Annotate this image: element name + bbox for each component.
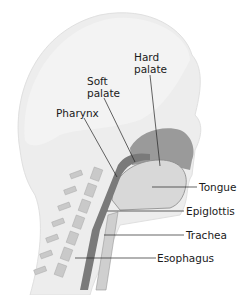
label-esophagus: Esophagus [157, 252, 214, 264]
label-soft-palate-line1: Soft [87, 75, 120, 87]
label-epiglottis: Epiglottis [186, 205, 235, 217]
label-tongue: Tongue [199, 181, 237, 193]
label-hard-palate-line2: palate [134, 63, 167, 75]
head-illustration [0, 0, 248, 295]
label-soft-palate-line2: palate [87, 87, 120, 99]
label-trachea: Trachea [186, 229, 227, 241]
label-hard-palate-line1: Hard [134, 51, 167, 63]
label-pharynx: Pharynx [56, 107, 99, 119]
label-soft-palate: Soft palate [87, 75, 120, 99]
label-hard-palate: Hard palate [134, 51, 167, 75]
